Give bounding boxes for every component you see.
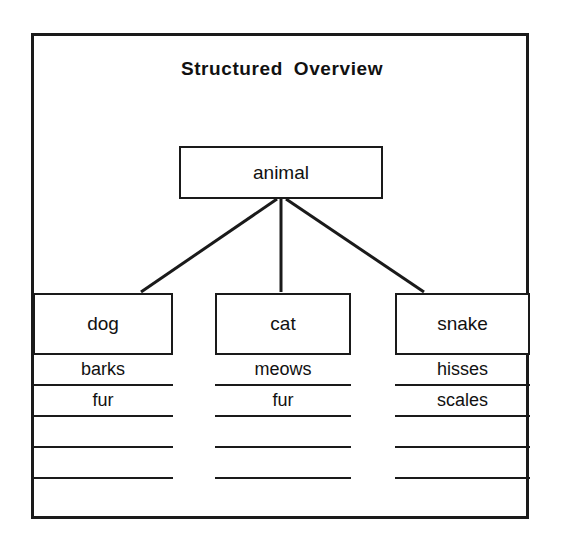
attribute-label: meows: [215, 358, 351, 380]
attribute-row[interactable]: meows: [215, 355, 351, 386]
attribute-row[interactable]: [395, 417, 530, 448]
node-cat-label: cat: [270, 313, 295, 335]
attribute-label: barks: [33, 358, 173, 380]
attribute-row[interactable]: barks: [33, 355, 173, 386]
attribute-row[interactable]: scales: [395, 386, 530, 417]
attribute-row[interactable]: [215, 479, 351, 510]
attribute-row[interactable]: [33, 448, 173, 479]
node-animal-label: animal: [253, 162, 309, 184]
diagram-canvas: Structured Overview animal dog cat snake…: [0, 0, 564, 550]
node-snake[interactable]: snake: [395, 293, 530, 355]
node-dog-label: dog: [87, 313, 119, 335]
attribute-list-dog: barks fur: [33, 355, 173, 510]
attribute-row[interactable]: hisses: [395, 355, 530, 386]
attribute-row[interactable]: [395, 448, 530, 479]
attribute-label: hisses: [395, 358, 530, 380]
attribute-label: scales: [395, 389, 530, 411]
attribute-row[interactable]: [33, 479, 173, 510]
attribute-row[interactable]: fur: [215, 386, 351, 417]
page-title: Structured Overview: [0, 58, 564, 80]
node-cat[interactable]: cat: [215, 293, 351, 355]
attribute-row[interactable]: [33, 417, 173, 448]
attribute-row[interactable]: [395, 479, 530, 510]
attribute-row[interactable]: fur: [33, 386, 173, 417]
attribute-label: fur: [33, 389, 173, 411]
attribute-list-snake: hisses scales: [395, 355, 530, 510]
attribute-list-cat: meows fur: [215, 355, 351, 510]
attribute-row[interactable]: [215, 417, 351, 448]
node-animal[interactable]: animal: [179, 146, 383, 199]
node-snake-label: snake: [437, 313, 488, 335]
node-dog[interactable]: dog: [33, 293, 173, 355]
attribute-label: fur: [215, 389, 351, 411]
attribute-row[interactable]: [215, 448, 351, 479]
